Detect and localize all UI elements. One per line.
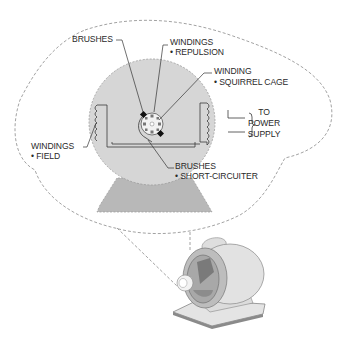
power-lead-top xyxy=(228,110,245,118)
label-brushes-bottom-2: • SHORT-CIRCUITER xyxy=(175,171,258,181)
label-power-1: TO xyxy=(258,107,270,117)
label-winding-squirrel-2: • SQUIRREL CAGE xyxy=(214,77,289,87)
label-windings-field-2: • FIELD xyxy=(31,151,60,161)
label-power-2: POWER xyxy=(248,118,280,128)
label-windings-repulsion-2: • REPULSION xyxy=(170,47,224,57)
label-power-3: SUPPLY xyxy=(248,129,281,139)
motor-illustration xyxy=(173,238,265,329)
label-windings-field-1: WINDINGS xyxy=(31,141,74,151)
label-brushes-bottom-1: BRUSHES xyxy=(175,161,216,171)
motor-diagram: BRUSHES WINDINGS • REPULSION WINDING • S… xyxy=(0,0,344,337)
label-brushes-top: BRUSHES xyxy=(72,34,113,44)
callout-leader-left xyxy=(117,228,178,287)
label-windings-repulsion-1: WINDINGS xyxy=(170,37,213,47)
label-winding-squirrel-1: WINDING xyxy=(214,66,252,76)
